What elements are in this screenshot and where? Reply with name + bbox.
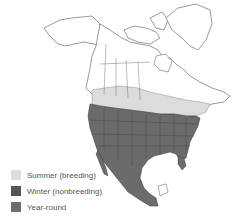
legend-item-year-round: Year-round	[11, 199, 102, 215]
year-round-swatch	[11, 202, 21, 212]
legend-label: Winter (nonbreeding)	[27, 187, 102, 196]
legend-item-summer: Summer (breeding)	[11, 167, 102, 183]
greenland	[166, 4, 212, 50]
legend-label: Summer (breeding)	[27, 171, 96, 180]
arctic-islands	[124, 26, 160, 44]
summer-swatch	[11, 170, 21, 180]
year-round-range	[88, 104, 200, 206]
legend-label: Year-round	[27, 203, 66, 212]
yucatan	[158, 184, 168, 196]
winter-swatch	[11, 186, 21, 196]
arctic-islands-2	[150, 12, 168, 30]
map-legend: Summer (breeding) Winter (nonbreeding) Y…	[11, 167, 102, 215]
legend-item-winter: Winter (nonbreeding)	[11, 183, 102, 199]
